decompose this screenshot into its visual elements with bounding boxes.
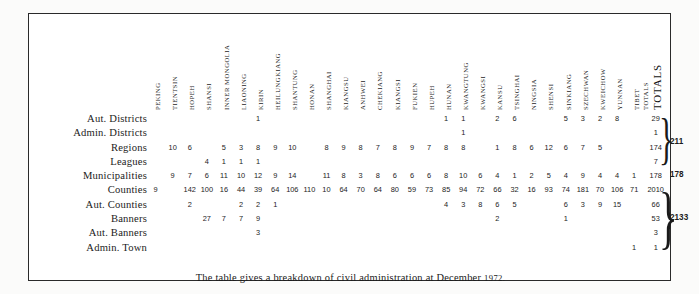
cell <box>147 112 164 126</box>
cell: 70 <box>591 183 608 197</box>
cell: 8 <box>369 169 386 183</box>
cell: 1 <box>267 198 284 212</box>
cell <box>352 155 369 169</box>
cell <box>438 212 455 226</box>
cell: 4 <box>591 169 608 183</box>
cell <box>198 141 215 155</box>
column-header-shansi: SHANSI <box>205 83 212 110</box>
column-header-inner-mongolia: INNER MONGOLIA <box>223 45 230 110</box>
table-row: Aut. Districts11126532829 <box>29 112 669 126</box>
column-header-kwangtung: KWANGTUNG <box>462 62 469 110</box>
cell <box>421 241 438 255</box>
cell <box>574 126 591 140</box>
column-header-kiangsi: KIANGSI <box>394 79 401 110</box>
cell <box>438 155 455 169</box>
cell: 6 <box>472 169 489 183</box>
cell <box>181 241 198 255</box>
cell <box>335 226 352 240</box>
cell <box>198 126 215 140</box>
cell: 27 <box>198 212 215 226</box>
cell: 1 <box>626 241 643 255</box>
cell <box>403 212 420 226</box>
cell <box>489 226 506 240</box>
cell <box>369 226 386 240</box>
cell <box>626 141 643 155</box>
cell <box>540 198 557 212</box>
column-header-hunan: HUNAN <box>445 83 452 110</box>
table-row: Aut. Counties2221438656391566 <box>29 198 669 212</box>
cell <box>198 241 215 255</box>
cell <box>472 126 489 140</box>
cell <box>403 126 420 140</box>
cell: 7 <box>215 212 232 226</box>
cell <box>523 241 540 255</box>
cell: 8 <box>472 198 489 212</box>
cell: 44 <box>232 183 249 197</box>
cell <box>506 155 523 169</box>
cell <box>506 241 523 255</box>
cell: 2 <box>489 212 506 226</box>
cell: 1 <box>626 169 643 183</box>
cell: 39 <box>250 183 267 197</box>
cell <box>267 112 284 126</box>
cell <box>250 241 267 255</box>
cell <box>301 112 318 126</box>
row-label-leagues: Leagues <box>29 155 147 169</box>
column-header-szechwan: SZECHWAN <box>582 70 589 110</box>
cell: 2 <box>489 112 506 126</box>
row-label-counties: Counties <box>29 183 147 197</box>
cell: 6 <box>421 169 438 183</box>
cell <box>352 212 369 226</box>
column-header-heilungkiang: HEILUNGKIANG <box>274 53 281 110</box>
cell <box>181 226 198 240</box>
cell: 66 <box>489 183 506 197</box>
cell: 9 <box>250 212 267 226</box>
cell <box>318 126 335 140</box>
cell: 2 <box>181 198 198 212</box>
cell: 5 <box>506 198 523 212</box>
cell <box>335 198 352 212</box>
cell <box>352 226 369 240</box>
cell: 1 <box>250 112 267 126</box>
cell <box>472 155 489 169</box>
cell: 7 <box>232 212 249 226</box>
caption-year: 1972. <box>484 273 505 283</box>
cell: 6 <box>403 169 420 183</box>
cell <box>386 112 403 126</box>
cell: 10 <box>232 169 249 183</box>
column-header-hupeh: HUPEH <box>428 85 435 110</box>
cell <box>318 155 335 169</box>
cell <box>164 212 181 226</box>
cell <box>523 226 540 240</box>
cell: 2 <box>232 198 249 212</box>
cell <box>540 226 557 240</box>
cell <box>318 212 335 226</box>
cell <box>267 241 284 255</box>
cell: 8 <box>335 169 352 183</box>
cell: 2 <box>250 198 267 212</box>
row-label-admin-districts: Admin. Districts <box>29 126 147 140</box>
cell: 14 <box>284 169 301 183</box>
cell: 9 <box>267 169 284 183</box>
cell <box>232 112 249 126</box>
cell <box>609 212 626 226</box>
cell: 106 <box>609 183 626 197</box>
cell: 8 <box>455 141 472 155</box>
cell: 6 <box>181 141 198 155</box>
cell <box>352 112 369 126</box>
cell <box>386 226 403 240</box>
cell: 4 <box>557 169 574 183</box>
cell <box>609 241 626 255</box>
cell <box>455 241 472 255</box>
column-header-kansu: KANSU <box>496 85 503 110</box>
cell <box>147 226 164 240</box>
cell <box>626 155 643 169</box>
cell: 2 <box>523 169 540 183</box>
table-caption: The table gives a breakdown of civil adm… <box>29 272 672 283</box>
cell: 5 <box>540 169 557 183</box>
cell <box>609 141 626 155</box>
cell <box>301 198 318 212</box>
cell <box>455 155 472 169</box>
column-header-hopeh: HOPEH <box>188 85 195 110</box>
cell: 3 <box>455 198 472 212</box>
